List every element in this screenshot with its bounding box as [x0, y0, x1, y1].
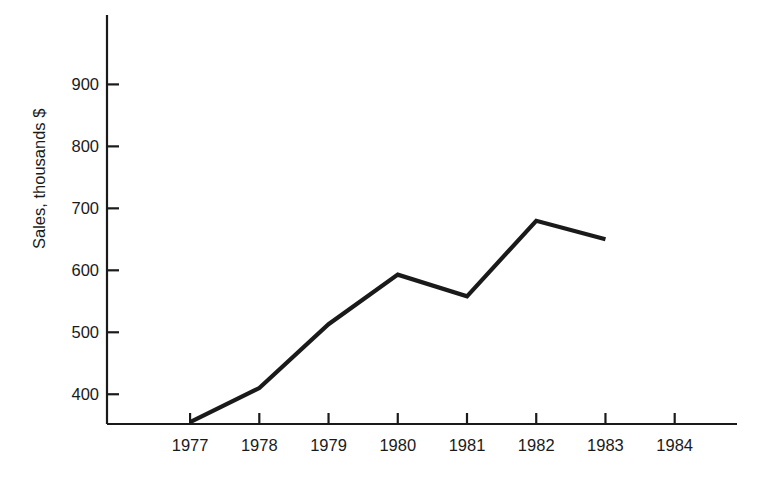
x-tick-label: 1982: [518, 436, 555, 455]
x-tick-label: 1977: [172, 436, 209, 455]
x-tick-label: 1980: [379, 436, 416, 455]
data-series-line: [190, 221, 605, 422]
x-tick-label: 1978: [241, 436, 278, 455]
x-tick-label: 1984: [656, 436, 693, 455]
axis-ticks: [107, 84, 675, 424]
x-tick-label: 1983: [587, 436, 624, 455]
chart-figure: Sales, thousands $ 900800700600500400 19…: [0, 0, 773, 484]
y-tick-label: 600: [55, 261, 99, 280]
y-tick-label: 400: [55, 385, 99, 404]
y-tick-label: 700: [55, 199, 99, 218]
x-tick-label: 1981: [449, 436, 486, 455]
y-tick-label: 800: [55, 137, 99, 156]
y-tick-label: 900: [55, 75, 99, 94]
y-tick-label: 500: [55, 323, 99, 342]
sales-line: [190, 221, 605, 422]
axis-lines: [107, 15, 737, 424]
y-axis-title: Sales, thousands $: [30, 108, 49, 248]
x-tick-label: 1979: [310, 436, 347, 455]
chart-plot-area: [0, 0, 773, 484]
